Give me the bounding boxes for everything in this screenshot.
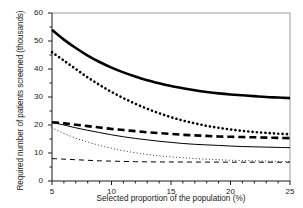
series-thick-solid	[52, 30, 290, 98]
chart-figure: Required number of patients screened (th…	[0, 0, 303, 208]
y-tick-label: 30	[25, 92, 43, 101]
x-tick-label: 25	[280, 187, 300, 196]
series-thick-dotted	[52, 52, 290, 134]
y-tick-label: 20	[25, 120, 43, 129]
plot-area	[0, 0, 303, 208]
y-tick-label: 10	[25, 148, 43, 157]
series-thin-dotted	[52, 128, 290, 162]
x-tick-label: 5	[42, 187, 62, 196]
x-tick-label: 20	[221, 187, 241, 196]
series-thin-dashed	[52, 159, 290, 163]
x-tick-label: 10	[102, 187, 122, 196]
y-tick-label: 50	[25, 36, 43, 45]
y-tick-label: 0	[25, 176, 43, 185]
y-tick-label: 60	[25, 8, 43, 17]
x-tick-label: 15	[161, 187, 181, 196]
y-tick-label: 40	[25, 64, 43, 73]
